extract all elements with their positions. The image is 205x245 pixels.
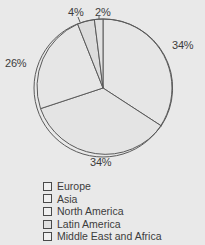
legend-swatch-icon-latin-america [43, 220, 52, 229]
legend-item-latin-america[interactable]: Latin America [43, 218, 203, 231]
legend-swatch-icon-middle-east-and-africa [43, 232, 52, 241]
legend-swatch-icon-europe [43, 182, 52, 191]
legend-item-asia[interactable]: Asia [43, 193, 203, 206]
pie-value-label-latin-america: 4% [68, 6, 84, 18]
legend-item-middle-east-and-africa[interactable]: Middle East and Africa [43, 230, 203, 243]
legend-swatch-icon-north-america [43, 207, 52, 216]
legend-item-europe[interactable]: Europe [43, 180, 203, 193]
pie-value-label-north-america: 26% [5, 57, 26, 69]
legend-label-middle-east-and-africa: Middle East and Africa [57, 230, 161, 243]
pie-value-label-middle-east-and-africa: 2% [95, 6, 111, 18]
pie-value-label-europe: 34% [172, 39, 193, 51]
chart-legend: Europe Asia North America Latin America … [43, 180, 203, 243]
legend-label-asia: Asia [57, 193, 77, 206]
legend-item-north-america[interactable]: North America [43, 205, 203, 218]
pie-value-label-asia: 34% [90, 156, 111, 168]
legend-label-latin-america: Latin America [57, 218, 121, 231]
legend-swatch-icon-asia [43, 194, 52, 203]
pie-chart-figure: 4% 2% 34% 26% 34% Europe Asia North Amer… [0, 0, 205, 245]
legend-label-north-america: North America [57, 205, 124, 218]
legend-label-europe: Europe [57, 180, 91, 193]
